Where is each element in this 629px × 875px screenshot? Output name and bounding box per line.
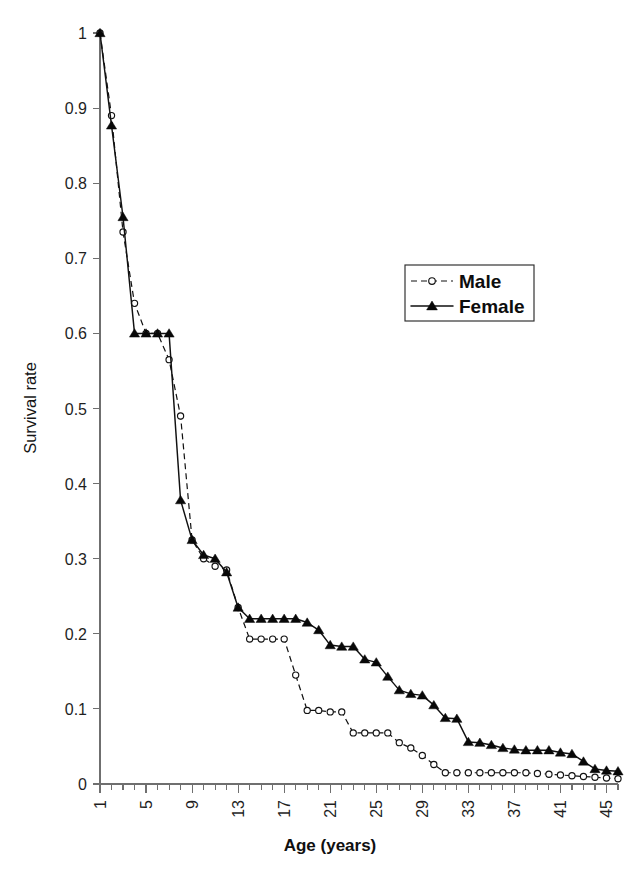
x-tick-label: 37	[506, 800, 523, 818]
data-point-marker	[534, 770, 540, 776]
x-tick-label: 9	[184, 800, 201, 809]
data-series-layer	[95, 28, 623, 782]
x-tick-label: 17	[276, 800, 293, 818]
x-tick-label: 29	[414, 800, 431, 818]
y-tick-label: 0.5	[65, 401, 87, 418]
y-axis-title: Survival rate	[21, 362, 39, 454]
data-point-marker	[325, 640, 335, 648]
data-point-marker	[373, 730, 379, 736]
y-tick-label: 0.8	[65, 175, 87, 192]
series-male	[97, 30, 621, 782]
x-tick-label: 33	[460, 800, 477, 818]
survival-rate-chart: 00.10.20.30.40.50.60.70.80.91 1591317212…	[0, 0, 629, 875]
y-tick-label: 0.1	[65, 701, 87, 718]
data-point-marker	[350, 730, 356, 736]
data-point-marker	[175, 495, 185, 503]
x-tick-label: 25	[368, 800, 385, 818]
series-line	[100, 33, 618, 779]
series-female	[95, 28, 623, 775]
y-axis-tick-labels: 00.10.20.30.40.50.60.70.80.91	[65, 25, 87, 793]
y-tick-label: 1	[78, 25, 87, 42]
data-point-marker	[615, 776, 621, 782]
y-axis-tick-group	[93, 33, 100, 784]
data-point-marker	[578, 757, 588, 765]
legend-item-label: Female	[459, 296, 524, 317]
x-tick-label: 21	[322, 800, 339, 818]
data-point-marker	[247, 636, 253, 642]
data-point-marker	[557, 772, 563, 778]
data-point-marker	[419, 752, 425, 758]
data-point-marker	[500, 770, 506, 776]
data-point-marker	[408, 745, 414, 751]
data-point-marker	[580, 773, 586, 779]
data-point-marker	[590, 764, 600, 772]
legend-item-label: Male	[459, 271, 501, 292]
data-point-marker	[281, 636, 287, 642]
data-point-marker	[258, 636, 264, 642]
y-tick-label: 0	[78, 776, 87, 793]
data-point-marker	[603, 775, 609, 781]
x-tick-label: 1	[92, 800, 109, 809]
data-point-marker	[339, 709, 345, 715]
data-point-marker	[316, 707, 322, 713]
y-tick-label: 0.7	[65, 250, 87, 267]
data-point-marker	[327, 709, 333, 715]
y-tick-label: 0.6	[65, 325, 87, 342]
data-point-marker	[385, 730, 391, 736]
y-tick-label: 0.2	[65, 626, 87, 643]
data-point-marker	[488, 770, 494, 776]
x-axis-tick-group	[100, 784, 618, 793]
x-tick-label: 41	[552, 800, 569, 818]
chart-canvas: 00.10.20.30.40.50.60.70.80.91 1591317212…	[0, 0, 629, 875]
data-point-marker	[546, 771, 552, 777]
legend-marker-circle	[429, 278, 436, 285]
data-point-marker	[463, 737, 473, 745]
data-point-marker	[465, 770, 471, 776]
x-tick-label: 45	[598, 800, 615, 818]
data-point-marker	[293, 672, 299, 678]
data-point-marker	[362, 730, 368, 736]
x-axis-title: Age (years)	[284, 836, 377, 855]
x-axis-tick-labels: 159131721252933374145	[92, 800, 615, 818]
data-point-marker	[304, 707, 310, 713]
data-point-marker	[592, 774, 598, 780]
x-tick-label: 13	[230, 800, 247, 818]
data-point-marker	[118, 212, 128, 220]
y-tick-label: 0.9	[65, 100, 87, 117]
data-point-marker	[431, 761, 437, 767]
y-tick-label: 0.3	[65, 551, 87, 568]
data-point-marker	[199, 550, 209, 558]
y-tick-label: 0.4	[65, 476, 87, 493]
data-point-marker	[454, 770, 460, 776]
data-point-marker	[212, 563, 218, 569]
x-tick-label: 5	[138, 800, 155, 809]
data-point-marker	[442, 770, 448, 776]
data-point-marker	[177, 413, 183, 419]
data-point-marker	[523, 770, 529, 776]
data-point-marker	[477, 770, 483, 776]
data-point-marker	[314, 625, 324, 633]
data-point-marker	[396, 740, 402, 746]
chart-legend: MaleFemale	[405, 265, 534, 321]
series-line	[100, 33, 618, 771]
data-point-marker	[511, 770, 517, 776]
data-point-marker	[106, 121, 116, 129]
data-point-marker	[569, 773, 575, 779]
data-point-marker	[270, 636, 276, 642]
